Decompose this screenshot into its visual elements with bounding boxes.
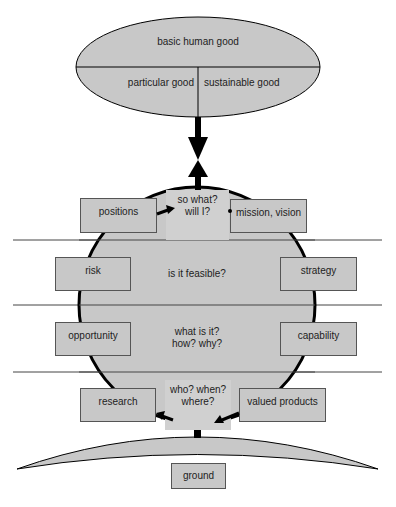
box-label: risk	[85, 265, 101, 290]
box-strategy: strategy	[280, 257, 357, 291]
question-line: how? why?	[150, 338, 244, 350]
box-research: research	[80, 388, 156, 422]
box-ground: ground	[171, 463, 226, 489]
label-basic-human-good: basic human good	[120, 36, 276, 48]
arrow-shaft-bottom	[195, 176, 201, 191]
box-valued-products: valued products	[239, 388, 326, 422]
arrow-up-icon	[188, 160, 208, 177]
diagram-canvas	[0, 0, 396, 507]
box-risk: risk	[55, 257, 131, 291]
box-mission-vision: mission, vision	[230, 199, 307, 233]
question-line: so what?	[166, 194, 229, 206]
question-box-who: who? when? where?	[165, 380, 231, 430]
question-box-so-what: so what? will I?	[166, 190, 229, 240]
box-label: opportunity	[68, 330, 117, 355]
question-feasible: is it feasible?	[150, 268, 244, 280]
box-label: valued products	[247, 396, 318, 421]
ground-connector	[194, 429, 201, 438]
question-line: what is it?	[150, 326, 244, 338]
label-sustainable-good: sustainable good	[204, 77, 294, 89]
question-line: where?	[165, 396, 231, 408]
box-positions: positions	[80, 198, 157, 233]
arrow-shaft-top	[195, 117, 201, 139]
box-opportunity: opportunity	[55, 322, 131, 356]
question-line: who? when?	[165, 384, 231, 396]
box-label: research	[99, 396, 138, 421]
arrow-down-icon	[188, 137, 208, 160]
box-capability: capability	[280, 322, 357, 356]
box-label: ground	[183, 470, 214, 488]
box-label: strategy	[301, 265, 337, 290]
label-particular-good: particular good	[110, 77, 194, 89]
box-label: positions	[99, 206, 138, 232]
box-label: mission, vision	[236, 207, 301, 232]
box-label: capability	[298, 330, 340, 355]
question-what-how: what is it? how? why?	[150, 326, 244, 350]
question-line: will I?	[166, 206, 229, 218]
